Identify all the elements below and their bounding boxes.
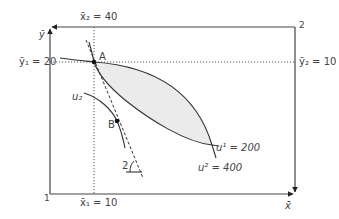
x-axis-label: x̄ <box>285 201 291 211</box>
y-axis-label: ȳ <box>39 30 45 40</box>
u2-lower-label: u₂ <box>72 92 82 102</box>
endowment-y1-label: ȳ₁ = 20 <box>19 57 56 67</box>
point-a <box>92 60 97 65</box>
endowment-y2-label: ȳ₂ = 10 <box>299 57 336 67</box>
u2-400-label: u² = 400 <box>198 163 242 173</box>
origin-1-label: 1 <box>44 194 50 203</box>
point-a-label: A <box>99 52 106 62</box>
u1-label: u¹ = 200 <box>216 143 260 153</box>
endowment-x1-label: x̄₁ = 10 <box>80 198 117 208</box>
point-b <box>115 119 120 124</box>
contract-lens-area <box>94 62 212 145</box>
origin-2-label: 2 <box>299 21 305 30</box>
point-b-label: B <box>108 120 115 130</box>
endowment-x2-label: x̄₂ = 40 <box>80 12 117 22</box>
edgeworth-box-diagram <box>0 0 339 219</box>
angle-label: 2 <box>122 161 128 171</box>
angle-arc <box>130 161 134 172</box>
